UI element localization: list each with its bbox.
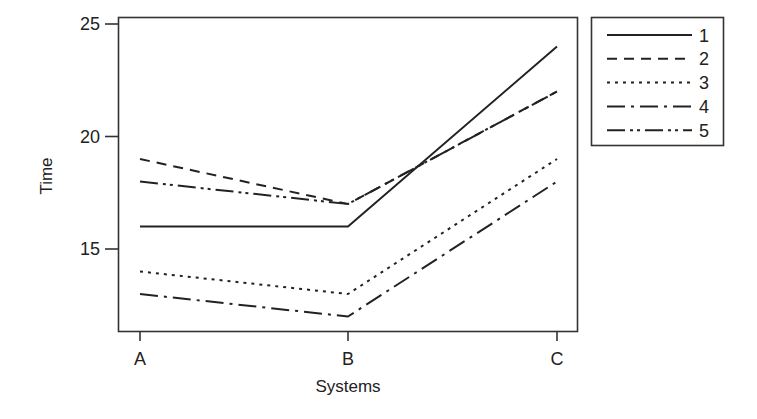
series-line-2 (140, 92, 557, 205)
legend-label-2: 2 (699, 49, 709, 69)
legend: 12345 (592, 18, 724, 146)
series-lines (140, 47, 557, 317)
y-tick-label: 25 (80, 14, 100, 34)
y-tick-label: 20 (80, 127, 100, 147)
y-tick-label: 15 (80, 239, 100, 259)
y-axis: 152025 (80, 14, 119, 259)
x-axis-title: Systems (315, 377, 380, 396)
series-line-5 (140, 92, 557, 205)
x-axis: ABC (134, 332, 564, 370)
legend-label-4: 4 (699, 97, 709, 117)
plot-frame (119, 18, 578, 332)
legend-label-5: 5 (699, 121, 709, 141)
x-tick-label: A (134, 349, 146, 369)
series-line-1 (140, 47, 557, 227)
x-tick-label: C (551, 349, 564, 369)
series-line-4 (140, 182, 557, 317)
y-axis-title: Time (37, 157, 56, 194)
legend-label-3: 3 (699, 73, 709, 93)
x-tick-label: B (342, 349, 354, 369)
legend-label-1: 1 (699, 26, 709, 46)
line-chart: 152025 ABC Time Systems 12345 (0, 0, 757, 419)
